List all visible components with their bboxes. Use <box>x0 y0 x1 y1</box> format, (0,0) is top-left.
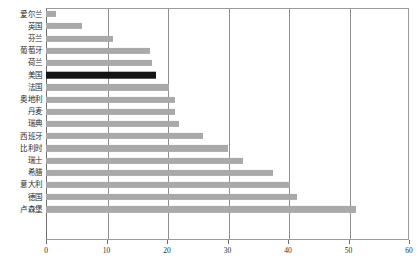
bar-row: 瑞典 <box>0 118 418 130</box>
bar-track <box>46 81 409 93</box>
bar-row: 法国 <box>0 81 418 93</box>
category-label: 爱尔兰 <box>0 10 42 19</box>
bar <box>46 145 228 151</box>
bar-chart: 爱尔兰英国芬兰葡萄牙荷兰美国法国奥地利丹麦瑞典西班牙比利时瑞士希腊意大利德国卢森… <box>0 0 418 268</box>
bar <box>46 206 356 212</box>
bar-track <box>46 179 409 191</box>
bar-row: 葡萄牙 <box>0 45 418 57</box>
category-label: 西班牙 <box>0 132 42 141</box>
bar-row: 奥地利 <box>0 93 418 105</box>
bar-track <box>46 142 409 154</box>
bar-row: 英国 <box>0 20 418 32</box>
x-tick-label-10: 10 <box>103 246 111 255</box>
bar-track <box>46 93 409 105</box>
x-tick-50 <box>349 240 350 244</box>
x-tick-label-50: 50 <box>345 246 353 255</box>
bar-row: 丹麦 <box>0 106 418 118</box>
x-tick-label-20: 20 <box>163 246 171 255</box>
x-tick-label-0: 0 <box>44 246 48 255</box>
bar-row: 希腊 <box>0 167 418 179</box>
bar-track <box>46 167 409 179</box>
category-label: 荷兰 <box>0 58 42 67</box>
x-tick-label-30: 30 <box>224 246 232 255</box>
bar <box>46 23 82 29</box>
bar-row: 西班牙 <box>0 130 418 142</box>
bar-track <box>46 32 409 44</box>
category-label: 比利时 <box>0 144 42 153</box>
bar-row: 卢森堡 <box>0 203 418 215</box>
bar-track <box>46 8 409 20</box>
x-tick-label-60: 60 <box>405 246 413 255</box>
category-label: 卢森堡 <box>0 205 42 214</box>
x-tick-40 <box>288 240 289 244</box>
category-label: 葡萄牙 <box>0 46 42 55</box>
bar-row: 比利时 <box>0 142 418 154</box>
bar <box>46 109 175 115</box>
bar-row: 瑞士 <box>0 154 418 166</box>
bar-track <box>46 69 409 81</box>
bar <box>46 60 152 66</box>
category-label: 瑞士 <box>0 156 42 165</box>
bar-track <box>46 203 409 215</box>
category-label: 英国 <box>0 22 42 31</box>
bar-track <box>46 154 409 166</box>
bar <box>46 121 179 127</box>
x-tick-30 <box>228 240 229 244</box>
bar-track <box>46 20 409 32</box>
bar-track <box>46 45 409 57</box>
bar <box>46 182 290 188</box>
x-axis: 0102030405060 <box>46 240 409 262</box>
category-label: 美国 <box>0 71 42 80</box>
category-label: 意大利 <box>0 180 42 189</box>
x-tick-60 <box>409 240 410 244</box>
chart-title <box>0 0 418 4</box>
bar-row: 德国 <box>0 191 418 203</box>
bar <box>46 157 243 163</box>
bar-row: 美国 <box>0 69 418 81</box>
bar <box>46 48 150 54</box>
bar <box>46 84 169 90</box>
x-tick-label-40: 40 <box>284 246 292 255</box>
bar-track <box>46 191 409 203</box>
bar-row: 芬兰 <box>0 32 418 44</box>
x-tick-20 <box>167 240 168 244</box>
bar <box>46 170 273 176</box>
category-label: 奥地利 <box>0 95 42 104</box>
bar-row: 意大利 <box>0 179 418 191</box>
bar <box>46 194 297 200</box>
bar-rows: 爱尔兰英国芬兰葡萄牙荷兰美国法国奥地利丹麦瑞典西班牙比利时瑞士希腊意大利德国卢森… <box>0 8 418 240</box>
bar <box>46 35 113 41</box>
bar-track <box>46 130 409 142</box>
bar-row: 荷兰 <box>0 57 418 69</box>
bar-track <box>46 106 409 118</box>
bar <box>46 96 175 102</box>
bar <box>46 72 156 79</box>
category-label: 希腊 <box>0 168 42 177</box>
x-tick-0 <box>46 240 47 244</box>
bar-track <box>46 118 409 130</box>
category-label: 丹麦 <box>0 107 42 116</box>
category-label: 芬兰 <box>0 34 42 43</box>
category-label: 法国 <box>0 83 42 92</box>
bar-track <box>46 57 409 69</box>
bar-row: 爱尔兰 <box>0 8 418 20</box>
category-label: 德国 <box>0 193 42 202</box>
category-label: 瑞典 <box>0 119 42 128</box>
x-tick-10 <box>107 240 108 244</box>
bar <box>46 11 56 17</box>
bar <box>46 133 203 139</box>
